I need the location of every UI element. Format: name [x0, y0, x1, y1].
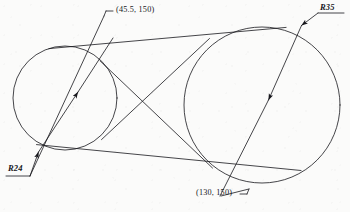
external-tangent-lower	[37, 145, 302, 171]
radius-line-small-ext	[78, 38, 113, 92]
internal-tangent-a	[100, 61, 213, 168]
radius-label-large: R35	[320, 3, 335, 12]
radius-label-small: R24	[8, 164, 23, 173]
radius-line-small	[39, 92, 79, 152]
technical-drawing-sheet: R24 R35 (45.5, 150) (130, 150)	[0, 0, 350, 212]
leader-point-top-line	[30, 16, 104, 176]
point-label-top: (45.5, 150)	[116, 6, 154, 14]
internal-tangent-b	[102, 39, 210, 140]
radius-line-large	[269, 26, 302, 101]
radius-leader-large	[302, 13, 319, 26]
geometry-canvas	[0, 0, 350, 212]
external-tangent-upper	[49, 27, 286, 48]
leader-point-top-stem	[104, 11, 106, 16]
large-circle	[184, 27, 340, 183]
point-label-bottom: (130, 150)	[196, 189, 232, 197]
radius-line-large-ext	[220, 100, 269, 196]
